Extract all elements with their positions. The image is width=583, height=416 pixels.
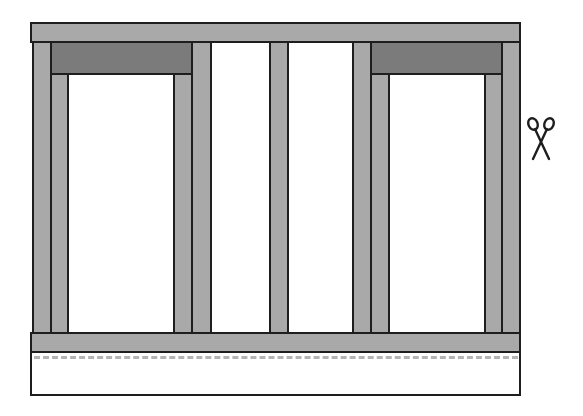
right-jack-stud-left — [370, 73, 390, 334]
scissors-icon — [526, 116, 556, 162]
left-jack-stud-left — [50, 73, 69, 334]
left-end-stud — [32, 41, 52, 334]
left-jack-stud-right — [173, 73, 193, 334]
right-end-stud — [501, 41, 521, 334]
center-stud — [269, 41, 289, 334]
right-king-stud — [352, 41, 372, 334]
cut-line — [34, 356, 518, 359]
bottom-plate — [30, 332, 521, 353]
left-king-stud — [191, 41, 212, 334]
right-header — [370, 41, 503, 75]
left-header — [50, 41, 193, 75]
top-plate — [30, 22, 521, 43]
